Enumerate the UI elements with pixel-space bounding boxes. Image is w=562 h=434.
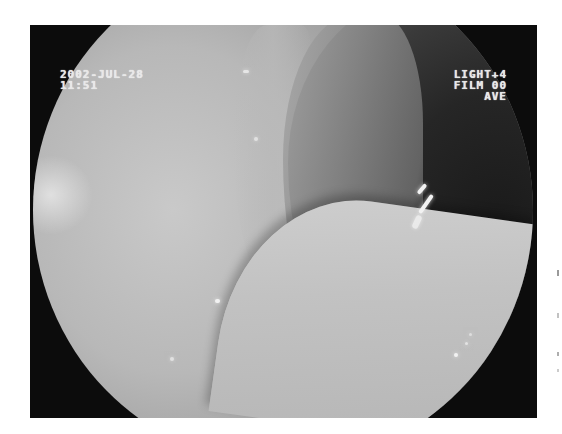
exposure-mode-label: AVE bbox=[454, 91, 507, 102]
timestamp-overlay: 2002-JUL-2811:51 bbox=[60, 69, 144, 91]
specular-highlight bbox=[454, 353, 458, 357]
margin-artifact bbox=[557, 369, 559, 372]
margin-artifact bbox=[557, 313, 559, 318]
margin-artifact bbox=[557, 352, 559, 356]
specular-highlight bbox=[243, 70, 249, 73]
time-label: 11:51 bbox=[60, 80, 144, 91]
specular-highlight bbox=[469, 333, 472, 336]
settings-overlay: LIGHT+4FILM 00AVE bbox=[454, 69, 507, 102]
mucosa-reflection bbox=[33, 155, 93, 235]
specular-highlight bbox=[215, 299, 220, 303]
margin-artifact bbox=[557, 270, 559, 276]
specular-highlight bbox=[465, 342, 468, 345]
specular-highlight bbox=[170, 357, 174, 361]
endoscopy-image-frame: 2002-JUL-2811:51 LIGHT+4FILM 00AVE bbox=[30, 25, 537, 418]
specular-highlight bbox=[254, 137, 258, 141]
